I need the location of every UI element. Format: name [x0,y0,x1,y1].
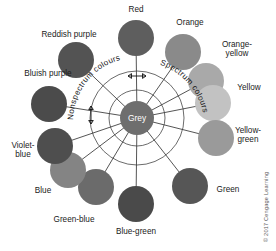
label-reddish-purple: Reddish purple [41,30,97,39]
colour-swatch-red[interactable] [118,20,154,56]
colour-swatch-blue-green[interactable] [118,186,154,222]
label-red: Red [128,5,143,14]
label-yellow-green: Yellow-green [235,126,261,144]
label-orange-yellow: Orange-yellow [222,40,252,58]
label-green: Green [217,185,240,194]
colour-swatch-violet-blue[interactable] [37,128,73,164]
label-orange: Orange [176,18,204,27]
label-yellow: Yellow [237,83,260,92]
colour-circle-diagram: Grey RedOrangeOrange-yellowYellowYellow-… [0,0,276,251]
label-green-blue: Green-blue [54,215,95,224]
colour-swatch-bluish-purple[interactable] [31,86,67,122]
label-blue-green: Blue-green [116,227,157,236]
label-bluish-purple: Bluish purple [24,69,72,78]
colour-swatch-yellow-green[interactable] [198,120,234,156]
copyright-notice: © 2017 Cengage Learning [263,172,269,242]
center-label: Grey [128,113,147,123]
label-blue: Blue [35,186,52,195]
colour-swatch-green[interactable] [172,168,208,204]
